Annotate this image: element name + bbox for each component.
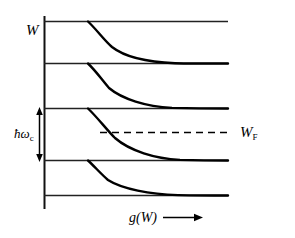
cyclotron-arrow-head-up [36,107,43,115]
x-axis-label: g(W) [129,210,157,226]
figure-root: W ħωc WF g(W) [0,0,295,238]
dos-curve-2 [88,64,228,109]
dos-curve-3 [88,109,228,161]
landau-dos-figure: W ħωc WF g(W) [0,0,295,238]
x-axis-arrow-head [194,214,203,221]
cyclotron-energy-subscript: c [30,133,34,143]
cyclotron-arrow-head-down [36,154,43,162]
fermi-level-label: WF [240,124,258,142]
x-axis-label-arrow [163,214,203,221]
cyclotron-energy-label: ħωc [14,126,34,143]
cyclotron-energy-symbol: ħω [14,126,30,141]
fermi-level-subscript: F [253,132,258,142]
dos-curve-1 [88,22,228,64]
dos-curve-4 [88,161,228,196]
cyclotron-spacing-arrow [36,107,43,162]
y-axis-label: W [26,22,40,38]
